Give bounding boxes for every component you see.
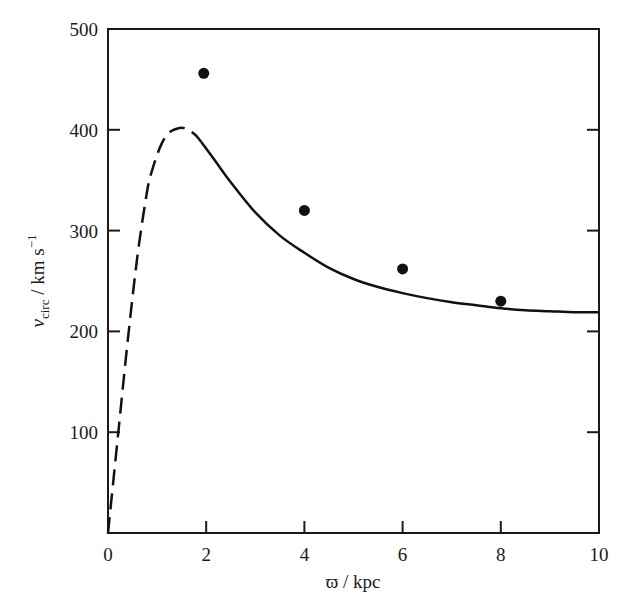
x-tick-label: 2 — [201, 544, 211, 565]
axis-ticks: 0246810100200300400500 — [70, 19, 609, 565]
rotation-curve-chart: 0246810100200300400500 ϖ / kpc vcirc / k… — [0, 0, 624, 608]
y-tick-label: 200 — [70, 321, 99, 342]
model-curve-dashed — [108, 128, 201, 533]
x-tick-label: 8 — [496, 544, 506, 565]
x-tick-label: 6 — [398, 544, 408, 565]
axis-labels: ϖ / kpc vcirc / km s−1 — [24, 235, 380, 592]
y-axis-label: vcirc / km s−1 — [24, 235, 52, 328]
data-point-marker — [299, 205, 310, 216]
y-axis-label-superscript: −1 — [24, 235, 39, 249]
y-tick-label: 500 — [70, 19, 99, 40]
data-point-marker — [397, 263, 408, 274]
x-tick-label: 10 — [590, 544, 609, 565]
data-point-marker — [495, 296, 506, 307]
plot-border — [108, 29, 599, 533]
x-axis-label: ϖ / kpc — [326, 571, 381, 592]
model-curve-solid — [201, 142, 599, 312]
x-tick-label: 4 — [300, 544, 310, 565]
y-tick-label: 300 — [70, 221, 99, 242]
data-series — [108, 68, 599, 533]
plot-frame — [108, 29, 599, 533]
y-tick-label: 100 — [70, 422, 99, 443]
y-tick-label: 400 — [70, 120, 99, 141]
y-axis-label-subscript: circ — [37, 299, 52, 319]
y-axis-label-units: / km s — [27, 248, 48, 299]
data-point-marker — [198, 68, 209, 79]
x-tick-label: 0 — [103, 544, 113, 565]
